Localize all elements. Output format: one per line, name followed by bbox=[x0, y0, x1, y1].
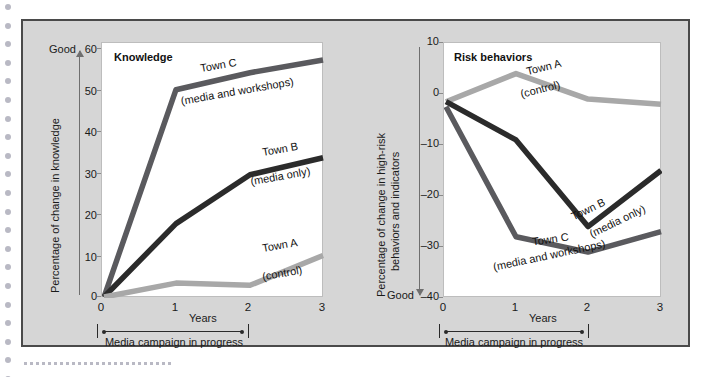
right-good-direction-arrow bbox=[415, 47, 425, 295]
margin-dot bbox=[5, 190, 11, 196]
margin-dot bbox=[5, 209, 11, 215]
right-plot-area: Risk behaviors Town A (control) Town B (… bbox=[443, 42, 661, 297]
margin-dot bbox=[5, 153, 11, 159]
margin-dot bbox=[5, 116, 11, 122]
page-bottom-dotted-rule bbox=[24, 362, 174, 365]
margin-dot bbox=[5, 4, 11, 10]
y-tickmark bbox=[97, 214, 101, 215]
y-tickmark bbox=[439, 246, 443, 247]
y-tickmark bbox=[97, 173, 101, 174]
y-tickmark bbox=[97, 90, 101, 91]
left-xtick-2: 2 bbox=[238, 301, 258, 313]
margin-dot bbox=[5, 320, 11, 326]
right-good-label: Good bbox=[387, 289, 414, 301]
margin-dot bbox=[5, 171, 11, 177]
right-plot-title: Risk behaviors bbox=[454, 51, 532, 63]
left-x-axis-label: Years bbox=[189, 312, 217, 324]
left-xtick-3: 3 bbox=[312, 301, 332, 313]
left-ytick-40: 40 bbox=[73, 126, 97, 138]
right-ytick-10: 10 bbox=[413, 35, 439, 47]
y-tickmark bbox=[439, 42, 443, 43]
y-tickmark bbox=[97, 48, 101, 49]
margin-dot bbox=[5, 246, 11, 252]
y-tickmark bbox=[97, 296, 101, 297]
margin-dot bbox=[5, 97, 11, 103]
margin-dot bbox=[5, 134, 11, 140]
right-y-axis-label-line2: behaviors and indicators bbox=[389, 152, 401, 271]
margin-dot bbox=[5, 23, 11, 29]
right-xtick-1: 1 bbox=[505, 301, 525, 313]
y-tickmark bbox=[439, 144, 443, 145]
page-margin-dots bbox=[5, 4, 15, 374]
left-y-axis-label: Percentage of change in knowledge bbox=[49, 118, 61, 293]
margin-dot bbox=[5, 60, 11, 66]
margin-dot bbox=[5, 302, 11, 308]
right-ytick-0: 0 bbox=[413, 86, 439, 98]
risk-behaviors-chart: Percentage of change in high-risk behavi… bbox=[363, 21, 692, 349]
right-xtick-2: 2 bbox=[577, 301, 597, 313]
right-ytick-m10: –10 bbox=[413, 137, 439, 149]
right-y-axis-label-line1: Percentage of change in high-risk bbox=[375, 133, 387, 297]
right-xtick-3: 3 bbox=[650, 301, 670, 313]
left-xtick-0: 0 bbox=[91, 301, 111, 313]
y-tickmark bbox=[97, 256, 101, 257]
left-xtick-1: 1 bbox=[165, 301, 185, 313]
margin-dot bbox=[5, 264, 11, 270]
y-tickmark bbox=[439, 93, 443, 94]
right-xtick-0: 0 bbox=[433, 301, 453, 313]
margin-dot bbox=[5, 339, 11, 345]
left-plot-title: Knowledge bbox=[114, 51, 173, 63]
right-x-axis-label: Years bbox=[529, 312, 557, 324]
margin-dot bbox=[5, 41, 11, 47]
left-ytick-50: 50 bbox=[73, 85, 97, 97]
line-town-c bbox=[446, 107, 661, 252]
y-tickmark bbox=[97, 131, 101, 132]
margin-dot bbox=[5, 283, 11, 289]
left-plot-area: Knowledge Town C (media and workshops) T… bbox=[101, 42, 323, 297]
right-ytick-m20: –20 bbox=[413, 188, 439, 200]
margin-dot bbox=[5, 78, 11, 84]
left-ytick-60: 60 bbox=[73, 43, 97, 55]
right-campaign-label: Media campaign in progress bbox=[429, 336, 599, 348]
right-ytick-m30: –30 bbox=[413, 239, 439, 251]
knowledge-chart: Percentage of change in knowledge Good 6… bbox=[23, 21, 363, 349]
left-campaign-label: Media campaign in progress bbox=[89, 336, 259, 348]
margin-dot bbox=[5, 357, 11, 363]
y-tickmark bbox=[439, 297, 443, 298]
left-good-label: Good bbox=[49, 43, 76, 55]
left-ytick-10: 10 bbox=[73, 251, 97, 263]
figure-panel: Percentage of change in knowledge Good 6… bbox=[21, 19, 690, 347]
margin-dot bbox=[5, 227, 11, 233]
y-tickmark bbox=[439, 195, 443, 196]
left-ytick-30: 30 bbox=[73, 168, 97, 180]
left-ytick-20: 20 bbox=[73, 209, 97, 221]
